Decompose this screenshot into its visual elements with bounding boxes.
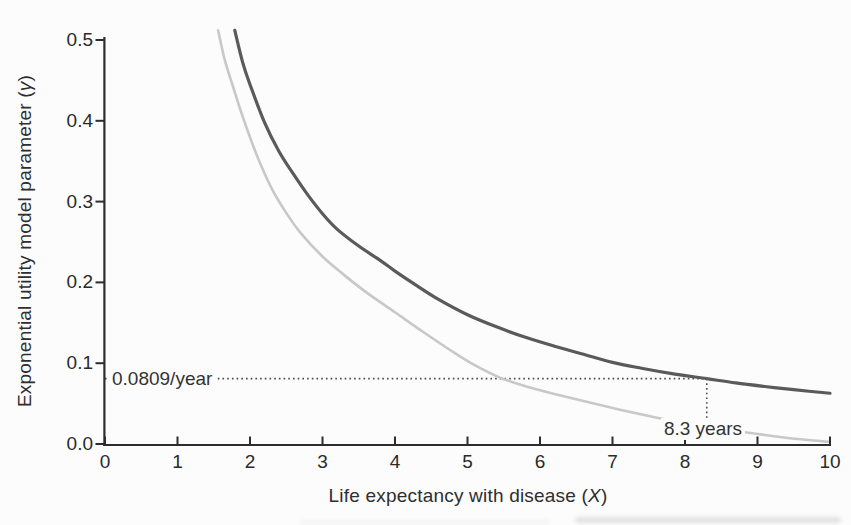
x-axis-title: Life expectancy with disease (X) (329, 485, 608, 507)
x-tick-label: 1 (156, 451, 200, 473)
y-tick-label: 0.2 (51, 271, 93, 293)
x-tick-label: 2 (228, 451, 272, 473)
cropped-caption-smudge-left (300, 520, 550, 524)
utility-model-chart (0, 0, 851, 525)
x-symbol: X (588, 485, 601, 506)
cropped-caption-smudge (575, 517, 841, 523)
gamma-symbol: γ (14, 82, 35, 92)
x-tick-label: 0 (83, 451, 127, 473)
years-value-annotation: 8.3 years (661, 418, 745, 440)
x-tick-label: 8 (663, 451, 707, 473)
x-tick-label: 3 (301, 451, 345, 473)
x-tick-label: 7 (591, 451, 635, 473)
upper-dark-curve (235, 30, 830, 393)
x-tick-label: 10 (808, 451, 851, 473)
y-axis-title: Exponential utility model parameter (γ) (14, 75, 36, 407)
y-tick-label: 0.1 (51, 352, 93, 374)
y-axis-title-text: Exponential utility model parameter ( (14, 91, 35, 407)
y-tick-label: 0.4 (51, 110, 93, 132)
y-tick-label: 0.3 (51, 191, 93, 213)
x-tick-label: 9 (736, 451, 780, 473)
x-axis-title-text: Life expectancy with disease ( (329, 485, 588, 506)
gamma-value-annotation: 0.0809/year (109, 368, 216, 390)
x-tick-label: 4 (373, 451, 417, 473)
x-tick-label: 5 (446, 451, 490, 473)
y-tick-label: 0.5 (51, 29, 93, 51)
x-tick-label: 6 (518, 451, 562, 473)
figure-page: Exponential utility model parameter (γ) … (0, 0, 851, 525)
lower-light-curve (218, 30, 830, 442)
